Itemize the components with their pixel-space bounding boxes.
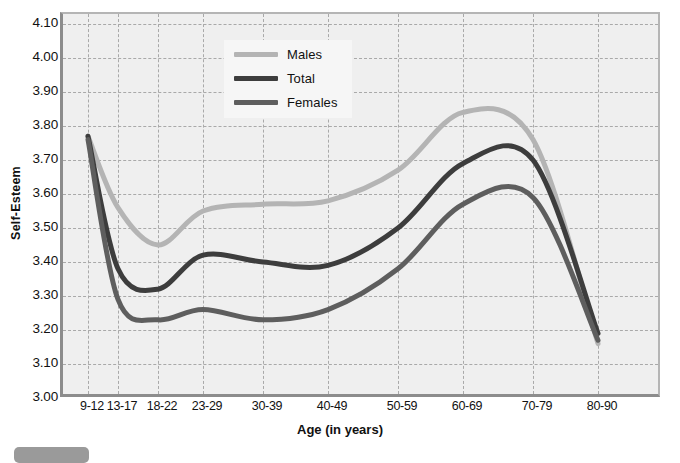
legend-item: Females [234, 95, 338, 110]
x-tick-label: 9-12 [80, 399, 104, 413]
legend-label: Females [287, 95, 338, 110]
series-line-females [88, 140, 598, 341]
series-line-males [88, 109, 598, 344]
legend-label: Males [287, 47, 322, 62]
y-axis-tick-labels: 3.003.103.203.303.403.503.603.703.803.90… [22, 0, 58, 457]
y-tick-label: 3.20 [33, 321, 58, 336]
x-tick-label: 70-79 [522, 399, 552, 413]
legend-swatch-icon [234, 52, 278, 57]
x-axis-title: Age (in years) [0, 422, 680, 437]
y-tick-label: 3.30 [33, 287, 58, 302]
y-axis-title: Self-Esteem [9, 133, 23, 273]
legend-item: Total [234, 71, 338, 86]
caption-tab [14, 447, 89, 463]
plot-area [60, 12, 660, 397]
legend-swatch-icon [234, 100, 278, 105]
x-tick-label: 60-69 [452, 399, 482, 413]
series-lines [63, 14, 658, 394]
y-tick-label: 3.70 [33, 151, 58, 166]
x-tick-label: 23-29 [192, 399, 222, 413]
y-tick-label: 3.90 [33, 83, 58, 98]
x-tick-label: 13-17 [107, 399, 137, 413]
x-axis-tick-labels: 9-1213-1718-2223-2930-3940-4950-5960-697… [0, 399, 680, 421]
y-tick-label: 4.00 [33, 49, 58, 64]
y-tick-label: 3.60 [33, 185, 58, 200]
legend-item: Males [234, 47, 338, 62]
y-tick-label: 3.40 [33, 253, 58, 268]
y-tick-label: 3.80 [33, 117, 58, 132]
y-tick-label: 3.10 [33, 355, 58, 370]
x-tick-label: 30-39 [252, 399, 282, 413]
x-tick-label: 40-49 [317, 399, 347, 413]
chart-legend: MalesTotalFemales [224, 40, 352, 118]
legend-label: Total [287, 71, 315, 86]
legend-swatch-icon [234, 76, 278, 81]
x-tick-label: 80-90 [587, 399, 617, 413]
x-tick-label: 50-59 [387, 399, 417, 413]
y-tick-label: 3.50 [33, 219, 58, 234]
y-tick-label: 4.10 [33, 15, 58, 30]
x-tick-label: 18-22 [147, 399, 177, 413]
